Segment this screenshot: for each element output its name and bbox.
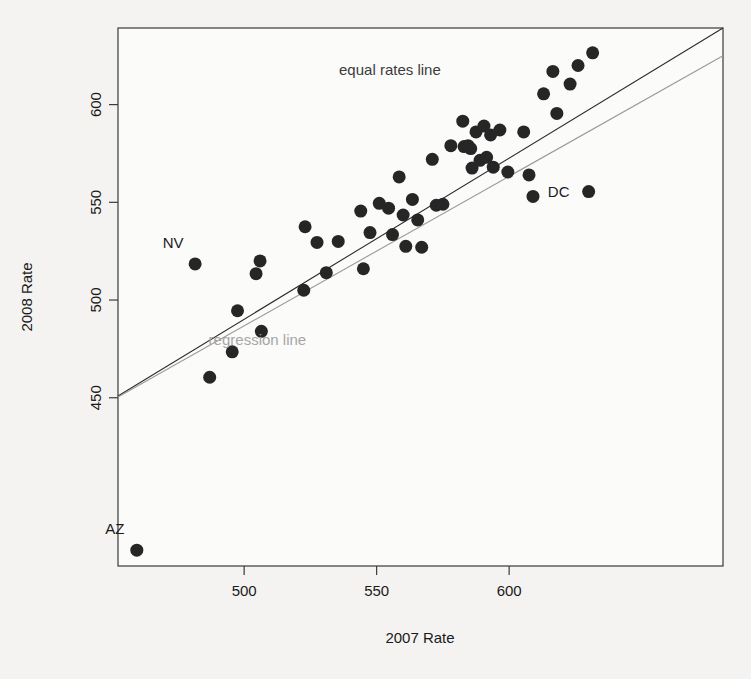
y-tick-label: 550: [87, 190, 104, 215]
data-point: [426, 153, 439, 166]
x-tick-label: 550: [364, 582, 389, 599]
plot-area-border: [118, 28, 723, 566]
data-point: [254, 254, 267, 267]
data-point: [582, 185, 595, 198]
data-point: [564, 78, 577, 91]
data-point: [297, 284, 310, 297]
data-point: [357, 262, 370, 275]
scatter-plot-figure: 500550600 450500550600 NVAZDC equal rate…: [0, 0, 751, 679]
data-point: [456, 115, 469, 128]
data-point: [250, 267, 263, 280]
data-point: [393, 170, 406, 183]
data-point: [399, 240, 412, 253]
point-label-nv: NV: [163, 234, 184, 251]
point-label-dc: DC: [548, 183, 570, 200]
data-point: [572, 59, 585, 72]
data-point: [299, 220, 312, 233]
data-point: [487, 161, 500, 174]
data-point: [550, 107, 563, 120]
y-tick-label: 500: [87, 288, 104, 313]
data-point: [406, 193, 419, 206]
data-point: [364, 226, 377, 239]
y-tick-label: 450: [87, 385, 104, 410]
data-point: [523, 168, 536, 181]
data-point: [203, 371, 216, 384]
data-point: [231, 304, 244, 317]
plot-frame: [118, 28, 723, 566]
data-point: [537, 87, 550, 100]
annotation-equal-rates-line: equal rates line: [339, 61, 441, 78]
data-point: [546, 65, 559, 78]
data-point: [311, 236, 324, 249]
data-point: [382, 202, 395, 215]
data-point: [444, 139, 457, 152]
x-tick-label: 600: [497, 582, 522, 599]
y-axis-title: 2008 Rate: [18, 262, 35, 331]
data-point: [436, 198, 449, 211]
data-point: [517, 125, 530, 138]
data-point: [386, 228, 399, 241]
data-point: [493, 124, 506, 137]
data-point: [586, 46, 599, 59]
chart-canvas: 500550600 450500550600 NVAZDC equal rate…: [0, 0, 751, 679]
data-point: [332, 235, 345, 248]
data-point: [397, 209, 410, 222]
data-point: [189, 257, 202, 270]
data-point: [354, 205, 367, 218]
x-axis-title: 2007 Rate: [385, 629, 454, 646]
y-tick-label: 600: [87, 92, 104, 117]
point-label-az: AZ: [105, 520, 124, 537]
data-point: [501, 166, 514, 179]
x-tick-label: 500: [232, 582, 257, 599]
data-point: [411, 213, 424, 226]
data-point: [415, 241, 428, 254]
annotation-regression-line: regression line: [209, 331, 307, 348]
data-point: [130, 544, 143, 557]
data-point: [320, 266, 333, 279]
data-point: [526, 190, 539, 203]
data-point: [464, 142, 477, 155]
